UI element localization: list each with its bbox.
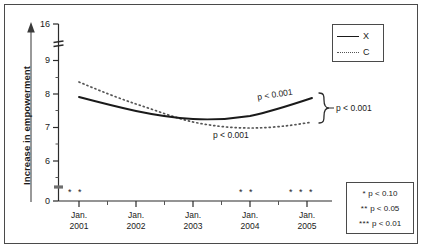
- legend-entry-c[interactable]: C: [337, 45, 370, 59]
- legend-label-c: C: [363, 47, 370, 57]
- x-tick-label-2003-month: Jan.: [165, 210, 221, 221]
- significance-legend-row-2: ** p < 0.05: [347, 201, 413, 216]
- y-tick-label-6: 6: [28, 156, 50, 166]
- x-tick-label-2003-year: 2003: [165, 221, 221, 232]
- y-tick-label-7: 7: [28, 122, 50, 132]
- x-tick-label-2005: Jan. 2005: [279, 210, 335, 231]
- x-tick-label-2002: Jan. 2002: [108, 210, 164, 231]
- significance-legend-row-1: * p < 0.10: [347, 186, 413, 201]
- legend-label-x: X: [363, 31, 369, 41]
- x-tick-label-2001: Jan. 2001: [51, 210, 107, 231]
- series-line-x: [79, 97, 312, 119]
- x-tick-label-2005-year: 2005: [279, 221, 335, 232]
- x-tick-label-2002-month: Jan.: [108, 210, 164, 221]
- significance-legend-row-3: *** p < 0.01: [347, 216, 413, 231]
- significance-legend-stars-2: **: [361, 204, 368, 213]
- x-tick-label-2005-month: Jan.: [279, 210, 335, 221]
- significance-legend-stars-1: *: [363, 189, 367, 198]
- chart-figure: Increase in empowerment 16 9 8 7 6 0 Jan…: [0, 0, 423, 249]
- brace-bracket: [319, 93, 329, 123]
- significance-legend[interactable]: * p < 0.10 ** p < 0.05 *** p < 0.01: [346, 182, 414, 234]
- y-tick-label-8: 8: [28, 89, 50, 99]
- x-axis-major-ticks: [79, 201, 307, 207]
- significance-marker-2001: * *: [68, 187, 84, 197]
- x-tick-label-2004: Jan. 2004: [222, 210, 278, 231]
- significance-legend-text-2: p < 0.05: [370, 204, 399, 213]
- significance-marker-2004: * *: [239, 187, 255, 197]
- y-tick-label-16: 16: [28, 19, 50, 29]
- annotation-p-value-lower: p < 0.001: [213, 130, 249, 140]
- legend-key-solid-line-icon: [337, 36, 359, 37]
- y-tick-label-0: 0: [28, 196, 50, 206]
- x-tick-label-2003: Jan. 2003: [165, 210, 221, 231]
- x-tick-label-2001-year: 2001: [51, 221, 107, 232]
- y-axis-major-ticks: [53, 24, 59, 201]
- significance-legend-stars-3: ***: [359, 219, 370, 228]
- x-tick-label-2004-year: 2004: [222, 221, 278, 232]
- y-tick-label-9: 9: [28, 55, 50, 65]
- series-legend[interactable]: X C: [332, 24, 384, 62]
- x-tick-label-2002-year: 2002: [108, 221, 164, 232]
- significance-marker-2005: * * *: [289, 187, 315, 197]
- x-tick-label-2001-month: Jan.: [51, 210, 107, 221]
- significance-legend-text-3: p < 0.01: [372, 219, 401, 228]
- significance-legend-text-1: p < 0.10: [368, 189, 397, 198]
- annotation-p-value-brace: p < 0.001: [336, 103, 372, 113]
- legend-entry-x[interactable]: X: [337, 29, 369, 43]
- legend-key-dotted-line-icon: [337, 52, 359, 53]
- x-tick-label-2004-month: Jan.: [222, 210, 278, 221]
